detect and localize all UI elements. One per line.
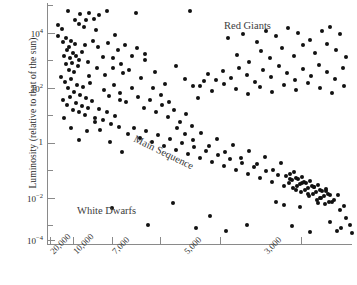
data-point (263, 155, 268, 160)
y-tick-label: 1 (39, 137, 44, 147)
data-point (62, 54, 67, 59)
data-point (159, 93, 164, 98)
data-point (318, 86, 323, 91)
data-point (59, 75, 64, 80)
data-point (154, 110, 159, 115)
data-point (95, 66, 100, 71)
data-point (156, 133, 161, 138)
data-point (62, 116, 67, 121)
data-point (86, 60, 91, 65)
data-point (121, 71, 126, 76)
data-point (258, 176, 263, 181)
data-point (118, 91, 123, 96)
data-point (69, 77, 74, 82)
data-point (83, 43, 88, 48)
data-point (192, 145, 197, 150)
data-point (67, 68, 72, 73)
data-point (198, 156, 203, 161)
data-point (226, 36, 231, 41)
data-point (199, 131, 204, 136)
data-point (74, 101, 79, 106)
data-point (207, 144, 212, 149)
data-point (247, 149, 252, 154)
data-point (339, 226, 344, 231)
data-point (292, 170, 297, 175)
data-point (73, 42, 78, 47)
data-point (120, 150, 125, 155)
data-point (166, 115, 171, 120)
data-point (77, 58, 82, 63)
data-point (180, 141, 185, 146)
data-point (107, 94, 112, 99)
data-point (247, 60, 252, 65)
data-point (280, 46, 285, 51)
data-point (64, 36, 69, 41)
data-point (113, 114, 118, 119)
data-point (116, 48, 121, 53)
data-point (103, 73, 108, 78)
data-point (320, 29, 325, 34)
data-point (264, 169, 269, 174)
data-point (102, 88, 107, 93)
data-point (72, 90, 77, 95)
data-point (308, 230, 313, 235)
y-tick-label: 102 (31, 82, 43, 94)
data-point (332, 198, 337, 203)
data-point (65, 103, 70, 108)
data-point (109, 122, 114, 127)
data-point (101, 55, 106, 60)
data-point (98, 128, 103, 133)
data-point (210, 89, 215, 94)
data-point (96, 45, 101, 50)
data-point (190, 124, 195, 129)
data-point (77, 138, 82, 143)
data-point (123, 43, 128, 48)
data-point (246, 172, 251, 177)
data-point (83, 113, 88, 118)
data-point (136, 95, 141, 100)
data-point (76, 64, 81, 69)
y-tick-label: 104 (31, 27, 43, 39)
data-point (259, 49, 264, 54)
data-point (336, 193, 341, 198)
data-point (309, 74, 314, 79)
data-point (270, 90, 275, 95)
data-point (87, 74, 92, 79)
data-point (282, 83, 287, 88)
data-point (126, 132, 131, 137)
data-point (235, 53, 240, 58)
data-point (270, 180, 275, 185)
data-point (231, 143, 236, 148)
data-point (210, 160, 215, 165)
data-point (132, 126, 137, 131)
data-point (215, 137, 220, 142)
data-point (143, 52, 148, 57)
data-point (198, 84, 203, 89)
data-point (228, 157, 233, 162)
data-point (328, 25, 333, 30)
data-point (191, 84, 196, 89)
data-point (277, 64, 282, 69)
data-point (234, 87, 239, 92)
data-point (237, 66, 242, 71)
data-point (71, 108, 76, 113)
data-point (253, 80, 258, 85)
data-point (118, 98, 123, 103)
data-point (325, 70, 330, 75)
data-point (183, 77, 188, 82)
data-point (282, 203, 287, 208)
data-point (97, 13, 102, 18)
data-point (84, 18, 89, 23)
data-point (268, 56, 273, 61)
data-point (279, 161, 284, 166)
data-point (240, 161, 245, 166)
data-point (135, 46, 140, 51)
data-point (338, 32, 343, 37)
data-point (261, 68, 266, 73)
data-point (69, 126, 74, 131)
data-point (130, 54, 135, 59)
data-point (239, 156, 244, 161)
data-point (344, 55, 349, 60)
data-point (61, 98, 66, 103)
data-point (111, 56, 116, 61)
